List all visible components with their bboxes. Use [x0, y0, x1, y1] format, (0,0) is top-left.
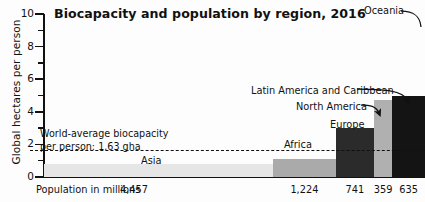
reference-note-line2: per person: 1.63 gha	[40, 141, 141, 154]
bar-oceania[interactable]	[392, 14, 425, 177]
callout-label-oceania: Oceania	[364, 5, 404, 16]
y-tick-major-4	[35, 111, 44, 113]
bar-fill-north-america	[374, 100, 392, 177]
y-tick-major-8	[35, 46, 44, 48]
y-tick-label-2: 2	[0, 137, 34, 149]
chart-title: Biocapacity and population by region, 20…	[54, 6, 366, 21]
population-value-asia: 4,457	[104, 184, 164, 195]
bar-label-africa: Africa	[284, 139, 312, 150]
bar-fill-oceania	[392, 96, 425, 177]
footer-row: Population in millions 4,457 1,224 741 3…	[0, 180, 425, 202]
y-tick-major-0	[35, 176, 44, 178]
callout-label-latin-america: Latin America and Caribbean	[251, 85, 394, 96]
y-tick-label-4: 4	[0, 105, 34, 117]
bar-fill-europe	[336, 128, 374, 177]
y-tick-major-6	[35, 78, 44, 80]
bar-label-asia: Asia	[141, 155, 162, 166]
y-tick-label-10: 10	[0, 7, 34, 19]
y-tick-major-10	[35, 13, 44, 15]
bar-label-europe: Europe	[330, 119, 364, 130]
population-value-oceania: 635	[379, 184, 425, 195]
bar-fill-africa	[273, 159, 336, 177]
callout-label-north-america: North America	[296, 101, 367, 112]
y-tick-label-8: 8	[0, 40, 34, 52]
chart-figure: Global hectares per person 0246810 Bioca…	[0, 0, 425, 202]
reference-note-line1: World-average biocapacity	[40, 128, 168, 141]
y-tick-label-6: 6	[0, 72, 34, 84]
